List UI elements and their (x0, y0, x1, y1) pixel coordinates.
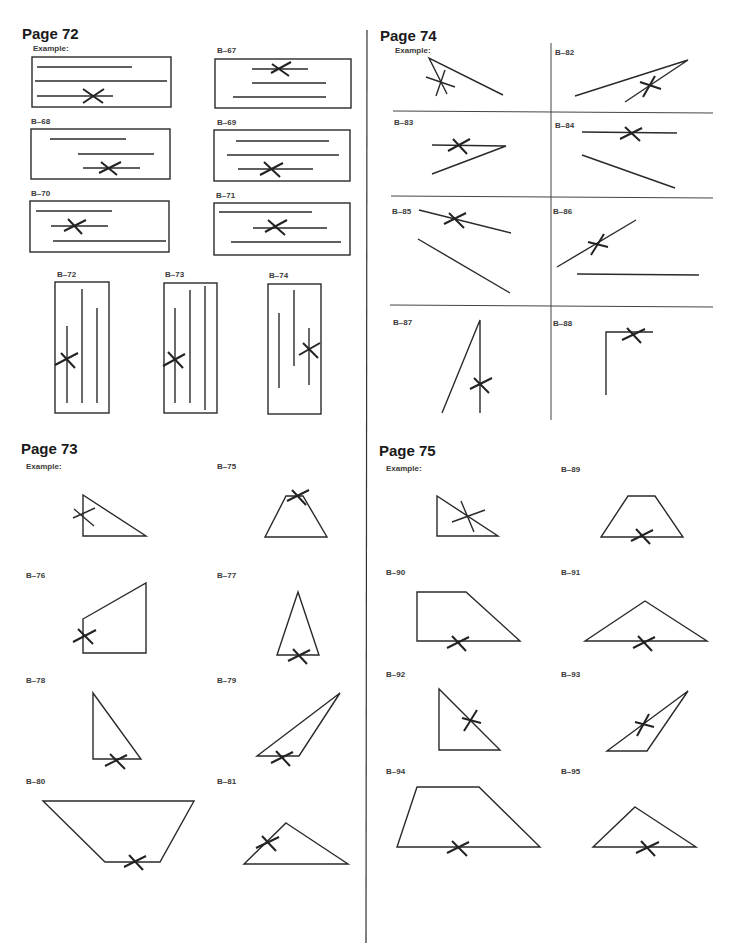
p72-b72-figure (55, 282, 109, 413)
p73-b77-figure (277, 592, 319, 664)
p72-b68-figure (31, 129, 170, 179)
p74-example-figure (426, 58, 503, 96)
p75-example-figure (437, 496, 498, 536)
p73-b76-figure (73, 583, 146, 653)
p73-b81-figure (244, 823, 348, 864)
p74-b88-figure (606, 328, 653, 395)
p75-b92-figure (439, 689, 500, 750)
p74-b85-figure (418, 210, 511, 293)
p74-b87-figure (442, 320, 492, 413)
p75-b89-figure (601, 496, 683, 544)
p72-b73-figure (163, 283, 217, 413)
p75-b90-figure (417, 592, 520, 651)
figures-canvas (0, 0, 738, 943)
p73-b79-figure (257, 693, 340, 766)
p75-b91-figure (585, 601, 707, 651)
p72-b71-figure (214, 203, 350, 255)
p74-b86-figure (557, 220, 699, 275)
p72-b74-figure (268, 284, 321, 414)
p74-b84-figure (582, 127, 677, 188)
p72-b67-figure (215, 59, 351, 108)
p75-b94-figure (397, 787, 540, 856)
p74-b83-figure (432, 139, 506, 174)
p73-example-figure (73, 495, 146, 536)
p73-b75-figure (265, 490, 327, 537)
p75-b93-figure (607, 691, 688, 751)
p74-grid (390, 43, 713, 420)
p73-b80-figure (43, 801, 194, 870)
p72-example-figure (32, 57, 171, 107)
p72-b69-figure (214, 130, 350, 181)
p72-b70-figure (30, 201, 169, 252)
p73-b78-figure (93, 693, 141, 769)
center-divider (366, 30, 367, 943)
p75-b95-figure (593, 807, 696, 856)
p74-b82-figure (575, 60, 688, 102)
